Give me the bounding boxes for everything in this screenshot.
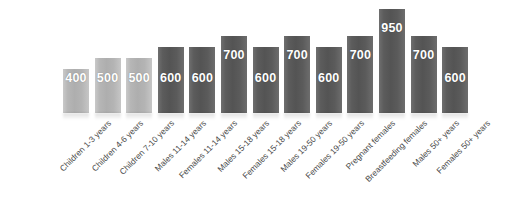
category-label-13: Females 50+ years: [435, 118, 493, 176]
category-label-7: Females 15-18 years: [240, 118, 303, 181]
bar-body: 600: [253, 47, 279, 113]
bar-body: 700: [221, 36, 247, 113]
bar-value-label: 600: [189, 71, 215, 85]
category-label-5: Females 11-14 years: [177, 118, 239, 180]
bar-1: 400: [63, 69, 89, 113]
category-label-3: Children 7-10 years: [118, 118, 177, 177]
category-label-9: Females 19-50 years: [303, 118, 366, 181]
bar-13: 600: [442, 47, 468, 113]
bar-body: 950: [379, 9, 405, 114]
bar-value-label: 500: [126, 71, 152, 85]
bar-8: 700: [284, 36, 310, 113]
bar-value-label: 600: [158, 71, 184, 85]
bar-body: 700: [411, 36, 437, 113]
bar-2: 500: [95, 58, 121, 113]
bar-value-label: 500: [95, 71, 121, 85]
bar-value-label: 700: [221, 48, 247, 62]
bar-9: 600: [316, 47, 342, 113]
bar-7: 600: [253, 47, 279, 113]
chart-page: 400Children 1-3 years500Children 4-6 yea…: [0, 0, 513, 219]
bar-body: 500: [95, 58, 121, 113]
bar-value-label: 400: [63, 71, 89, 85]
bar-11: 950: [379, 9, 405, 114]
bar-value-label: 700: [411, 48, 437, 62]
bar-10: 700: [347, 36, 373, 113]
category-label-text: Females 11-14 years: [177, 118, 239, 180]
bar-3: 500: [126, 58, 152, 113]
bar-body: 600: [189, 47, 215, 113]
category-label-text: Children 7-10 years: [118, 118, 177, 177]
bar-body: 600: [158, 47, 184, 113]
bar-body: 700: [347, 36, 373, 113]
bar-body: 600: [316, 47, 342, 113]
bar-value-label: 600: [253, 71, 279, 85]
category-label-text: Females 15-18 years: [240, 118, 303, 181]
bar-body: 400: [63, 69, 89, 113]
bar-value-label: 600: [442, 71, 468, 85]
bar-value-label: 600: [316, 71, 342, 85]
bar-6: 700: [221, 36, 247, 113]
category-label-text: Females 50+ years: [435, 118, 493, 176]
bar-body: 500: [126, 58, 152, 113]
bar-12: 700: [411, 36, 437, 113]
bar-5: 600: [189, 47, 215, 113]
category-label-text: Females 19-50 years: [303, 118, 366, 181]
bar-body: 700: [284, 36, 310, 113]
bar-chart-plot-area: 400Children 1-3 years500Children 4-6 yea…: [0, 0, 513, 219]
bar-value-label: 950: [379, 21, 405, 35]
bar-4: 600: [158, 47, 184, 113]
bar-body: 600: [442, 47, 468, 113]
bar-value-label: 700: [284, 48, 310, 62]
bar-value-label: 700: [347, 48, 373, 62]
